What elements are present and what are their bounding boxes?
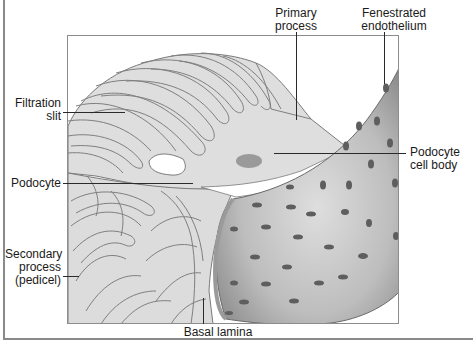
podocyte-illustration (68, 36, 399, 324)
label-podocyte: Podocyte (5, 177, 61, 190)
label-fenestrated-endothelium: Fenestrated endothelium (352, 7, 436, 33)
label-secondary-process: Secondary process (pedicel) (5, 248, 61, 287)
label-basal-lamina: Basal lamina (168, 326, 268, 339)
diagram-panel (67, 35, 399, 324)
label-line: cell body (410, 159, 462, 172)
label-line: slit (5, 110, 61, 123)
label-podocyte-cell-body: Podocyte cell body (410, 146, 462, 172)
leader-fenestrated-endothelium (384, 32, 385, 84)
label-line: Podocyte (5, 177, 61, 190)
leader-filtration-slit (63, 112, 125, 113)
leader-secondary-process (63, 276, 79, 277)
label-primary-process: Primary process (264, 7, 328, 33)
leader-primary-process (296, 32, 297, 120)
podocyte-nucleus (236, 154, 262, 168)
leader-podocyte-cell-body (274, 153, 406, 154)
label-line: Basal lamina (168, 326, 268, 339)
label-line: endothelium (352, 20, 436, 33)
leader-basal-lamina (203, 298, 204, 324)
leader-podocyte (63, 183, 193, 184)
label-filtration-slit: Filtration slit (5, 97, 61, 123)
label-line: (pedicel) (5, 274, 61, 287)
